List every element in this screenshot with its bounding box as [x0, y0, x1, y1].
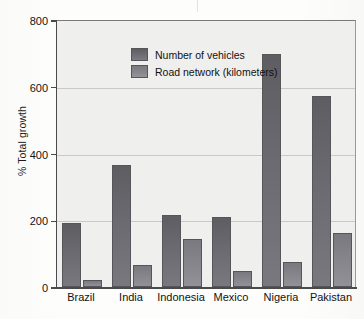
y-axis-tick-label: 400: [30, 149, 48, 161]
y-axis-tick-label: 0: [42, 282, 48, 294]
y-axis-tick-label: 800: [30, 15, 48, 27]
legend-swatch-roads-icon: [131, 65, 148, 78]
y-axis-tick-mark: [51, 154, 57, 155]
bar-brazil-vehicles: [62, 223, 81, 287]
chart-legend: Number of vehiclesRoad network (kilomete…: [131, 48, 278, 78]
y-axis-label: % Total growth: [16, 81, 28, 201]
bar-india-vehicles: [112, 165, 131, 287]
bar-india-roads: [133, 265, 152, 287]
bar-chart-figure: % Total growth 8006004002000 Number of v…: [0, 0, 364, 319]
y-axis-tick-label: 200: [30, 215, 48, 227]
gridline: [57, 221, 355, 222]
x-axis-label-mexico: Mexico: [214, 291, 249, 303]
gridline: [57, 155, 355, 156]
y-axis-tick-mark: [51, 20, 57, 21]
legend-item-label: Road network (kilometers): [155, 66, 278, 78]
plot-area: 8006004002000 Number of vehiclesRoad net…: [56, 20, 356, 287]
legend-item[interactable]: Road network (kilometers): [131, 65, 278, 78]
x-axis-label-indonesia: Indonesia: [157, 291, 205, 303]
bar-brazil-roads: [83, 280, 102, 287]
x-axis-label-pakistan: Pakistan: [310, 291, 352, 303]
y-axis-tick-mark: [51, 87, 57, 88]
legend-swatch-vehicles-icon: [131, 48, 148, 61]
x-axis-label-brazil: Brazil: [67, 291, 95, 303]
scan-seam-artifact: [197, 0, 198, 12]
legend-item-label: Number of vehicles: [155, 49, 245, 61]
legend-item[interactable]: Number of vehicles: [131, 48, 278, 61]
bar-nigeria-vehicles: [262, 54, 281, 287]
bar-indonesia-roads: [183, 239, 202, 287]
bar-mexico-vehicles: [212, 217, 231, 287]
y-axis-tick-label: 600: [30, 82, 48, 94]
bar-indonesia-vehicles: [162, 215, 181, 287]
gridline: [57, 88, 355, 89]
x-axis-line: [56, 287, 357, 289]
bar-nigeria-roads: [283, 262, 302, 287]
x-axis-label-india: India: [119, 291, 143, 303]
bar-pakistan-roads: [333, 233, 352, 287]
y-axis-tick-mark: [51, 221, 57, 222]
bar-mexico-roads: [233, 271, 252, 287]
bar-pakistan-vehicles: [312, 96, 331, 287]
x-axis-label-nigeria: Nigeria: [264, 291, 299, 303]
